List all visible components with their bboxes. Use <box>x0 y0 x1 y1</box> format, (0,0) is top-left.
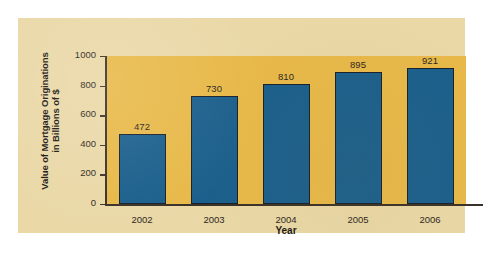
y-tick-600: 600 <box>100 115 106 116</box>
x-tick-label-2004: 2004 <box>261 214 311 225</box>
bar-value-2005: 895 <box>333 59 383 70</box>
x-tick-label-2005: 2005 <box>333 214 383 225</box>
bar-value-2002: 472 <box>117 121 167 132</box>
y-tick-label-200: 200 <box>66 167 96 178</box>
y-axis-title-line-2: in Billions of $ <box>51 89 62 152</box>
bar-2003[interactable] <box>191 96 238 204</box>
bar-value-2006: 921 <box>405 55 455 66</box>
y-tick-label-800: 800 <box>66 79 96 90</box>
x-axis-line <box>105 204 483 206</box>
plot-area-wrapper: 1000 800 600 400 200 0 472 <box>106 56 466 204</box>
y-axis-title: Value of Mortgage Originations in Billio… <box>38 46 64 196</box>
y-tick-1000: 1000 <box>100 56 106 57</box>
y-axis-line <box>105 56 107 205</box>
bar-2002[interactable] <box>119 134 166 204</box>
bar-2004[interactable] <box>263 84 310 204</box>
y-tick-label-400: 400 <box>66 138 96 149</box>
bar-2005[interactable] <box>335 72 382 204</box>
y-tick-200: 200 <box>100 174 106 175</box>
x-tick-label-2003: 2003 <box>189 214 239 225</box>
y-tick-label-600: 600 <box>66 108 96 119</box>
y-tick-label-0: 0 <box>66 197 96 208</box>
y-tick-label-1000: 1000 <box>66 49 96 60</box>
bar-2006[interactable] <box>407 68 454 204</box>
x-tick-label-2002: 2002 <box>117 214 167 225</box>
chart-card: Value of Mortgage Originations in Billio… <box>18 18 465 233</box>
y-tick-800: 800 <box>100 86 106 87</box>
x-tick-label-2006: 2006 <box>405 214 455 225</box>
y-tick-400: 400 <box>100 145 106 146</box>
bar-value-2004: 810 <box>261 71 311 82</box>
y-tick-0: 0 <box>100 204 106 205</box>
bar-value-2003: 730 <box>189 83 239 94</box>
x-axis-title: Year <box>106 225 466 236</box>
